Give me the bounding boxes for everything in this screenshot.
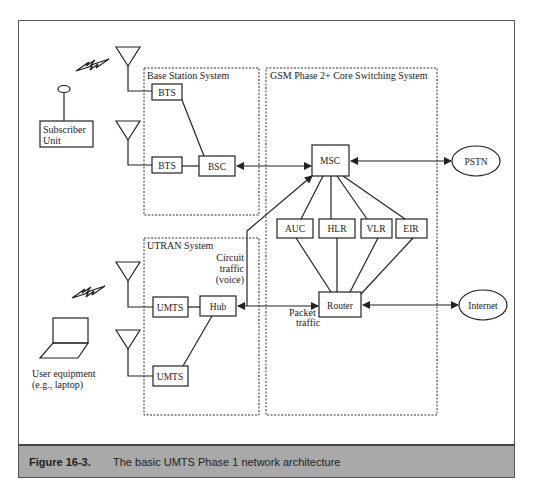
internet-label: Internet xyxy=(468,301,498,311)
wireless-signal-icon xyxy=(72,286,105,298)
pstn-label: PSTN xyxy=(464,157,487,167)
eir-label: EIR xyxy=(403,224,419,234)
auc-label: AUC xyxy=(285,224,305,234)
antenna-icon xyxy=(116,47,140,66)
subscriber-antenna-icon xyxy=(58,86,70,93)
packet-traffic-label: traffic xyxy=(296,317,321,328)
bts-label: BTS xyxy=(158,161,175,171)
hlr-label: HLR xyxy=(328,224,348,234)
bts-label: BTS xyxy=(158,88,175,98)
core-switching-label: GSM Phase 2+ Core Switching System xyxy=(270,70,428,81)
wireless-signal-icon xyxy=(76,59,109,71)
antenna-icon xyxy=(116,121,140,140)
figure-caption: Figure 16-3. The basic UMTS Phase 1 netw… xyxy=(18,444,515,478)
umts-label: UMTS xyxy=(157,303,183,313)
network-diagram: Base Station System GSM Phase 2+ Core Sw… xyxy=(0,0,533,488)
laptop-icon xyxy=(53,318,88,343)
utran-system-label: UTRAN System xyxy=(147,240,214,251)
circuit-traffic-link xyxy=(247,176,312,306)
vlr-label: VLR xyxy=(367,224,387,234)
antenna-icon xyxy=(116,330,140,349)
user-equipment-label: (e.g., laptop) xyxy=(32,379,83,391)
subscriber-unit-label: Subscriber xyxy=(43,124,86,135)
umts-label: UMTS xyxy=(157,372,183,382)
core-switching-group xyxy=(266,68,437,415)
msc-label: MSC xyxy=(320,156,340,166)
subscriber-unit-label: Unit xyxy=(43,135,61,146)
user-equipment-label: User equipment xyxy=(32,368,96,379)
bsc-label: BSC xyxy=(208,162,226,172)
antenna-icon xyxy=(116,262,140,281)
circuit-traffic-label: Circuit xyxy=(216,252,244,263)
base-station-system-label: Base Station System xyxy=(147,70,229,81)
figure-caption-text: The basic UMTS Phase 1 network architect… xyxy=(113,456,340,468)
hub-label: Hub xyxy=(210,302,227,312)
figure-number: Figure 16-3. xyxy=(29,456,113,468)
router-label: Router xyxy=(327,301,354,311)
circuit-traffic-label: (voice) xyxy=(216,274,244,286)
circuit-traffic-label: traffic xyxy=(220,263,245,274)
